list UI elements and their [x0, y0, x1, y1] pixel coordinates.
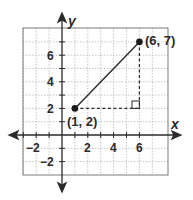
x-axis-right-arrow-icon: [172, 131, 181, 139]
point-6-7: [136, 39, 143, 46]
x-tick-label: 4: [110, 141, 117, 155]
point-1-2: [72, 105, 79, 112]
y-axis-up-arrow-icon: [58, 13, 66, 22]
y-tick-label: 6: [47, 49, 54, 63]
y-tick-label: 4: [47, 75, 54, 89]
x-axis: [9, 131, 181, 139]
y-axis: [58, 13, 66, 192]
y-axis-label: y: [67, 13, 77, 29]
y-tick-label: −2: [40, 155, 54, 169]
grid: [23, 28, 168, 175]
segment-p1-p2: [75, 42, 139, 109]
point-label-6-7: (6, 7): [145, 33, 175, 48]
x-axis-left-arrow-icon: [9, 131, 18, 139]
x-tick-label: −2: [26, 141, 40, 155]
x-tick-label: 6: [136, 141, 143, 155]
x-axis-label: x: [170, 116, 180, 132]
right-angle-marker-icon: [132, 101, 139, 108]
grid-frame: [23, 28, 168, 175]
x-tick-label: 2: [84, 141, 91, 155]
y-tick-label: 2: [47, 102, 54, 116]
point-label-1-2: (1, 2): [67, 114, 97, 129]
coordinate-plane: −2 2 4 6 6 4 2 −2 y x (1, 2) (6, 7): [0, 0, 193, 200]
y-axis-down-arrow-icon: [58, 183, 66, 192]
